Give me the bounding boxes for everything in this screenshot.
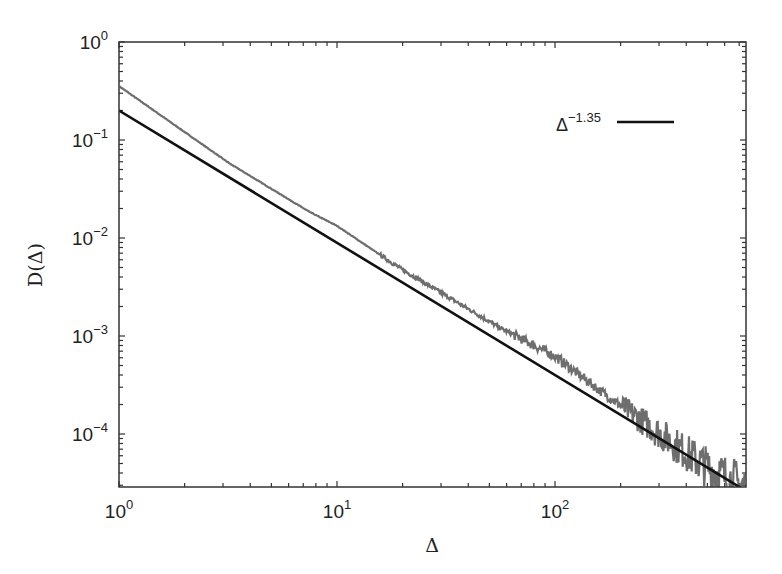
legend: Δ−1.35 bbox=[556, 110, 674, 135]
plot-frame bbox=[119, 42, 746, 487]
y-tick-label: 10−3 bbox=[72, 322, 108, 347]
x-axis-label: Δ bbox=[425, 534, 439, 556]
plot-series bbox=[119, 87, 752, 507]
legend-label: Δ−1.35 bbox=[556, 110, 601, 135]
y-axis-label: D(Δ) bbox=[24, 243, 46, 287]
data-series-line bbox=[120, 87, 745, 507]
axis-ticks bbox=[119, 42, 746, 487]
log-log-chart: 10010110210010−110−210−310−4 Δ−1.35 Δ D(… bbox=[0, 0, 782, 574]
x-tick-label: 101 bbox=[323, 497, 351, 522]
y-tick-label: 10−1 bbox=[72, 126, 108, 151]
y-tick-label: 10−4 bbox=[72, 420, 108, 445]
x-tick-label: 100 bbox=[105, 497, 133, 522]
y-tick-label: 100 bbox=[80, 28, 108, 53]
power-law-fit-line bbox=[119, 110, 752, 494]
y-tick-label: 10−2 bbox=[72, 224, 108, 249]
tick-labels: 10010110210010−110−210−310−4 bbox=[72, 28, 569, 522]
x-tick-label: 102 bbox=[541, 497, 569, 522]
